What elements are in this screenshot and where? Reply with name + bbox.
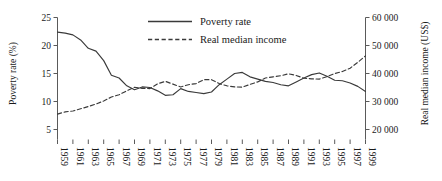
x-axis-tick-label: 1977 [198, 147, 208, 166]
right-axis-tick-label: 50 000 [372, 41, 398, 51]
x-axis-tick-label: 1993 [321, 147, 331, 166]
x-axis-tick-label: 1961 [75, 147, 85, 166]
x-axis-tick-label: 1985 [259, 147, 269, 166]
x-axis-tick-label: 1983 [244, 147, 254, 166]
left-axis-tick-label: 5 [46, 125, 51, 135]
x-axis-tick-label: 1967 [121, 147, 131, 166]
legend-label-poverty-rate: Poverty rate [200, 16, 251, 27]
x-axis-tick-label: 1981 [229, 147, 239, 166]
x-axis-tick-label: 1991 [306, 147, 316, 166]
x-axis-tick-label: 1965 [105, 147, 115, 166]
poverty-income-line-chart: 510152025 20 00030 00040 00050 00060 000… [0, 0, 442, 181]
x-axis: 1959196119631965196719691971197319751977… [58, 140, 378, 167]
x-axis-tick-label: 1995 [336, 147, 346, 166]
x-axis-tick-label: 1971 [152, 147, 162, 166]
chart-container: 510152025 20 00030 00040 00050 00060 000… [0, 0, 442, 181]
x-axis-tick-label: 1973 [167, 147, 177, 166]
left-axis-tick-label: 20 [42, 41, 52, 51]
x-axis-tick-label: 1975 [182, 147, 192, 166]
right-axis-tick-label: 60 000 [372, 13, 398, 23]
left-axis-tick-label: 25 [42, 13, 52, 23]
right-axis-tick-label: 30 000 [372, 97, 398, 107]
series-line-real-median-income [58, 56, 366, 114]
y-axis-title: Poverty rate (%) [8, 42, 19, 105]
left-axis: 510152025 [42, 13, 58, 140]
right-axis-tick-label: 20 000 [372, 125, 398, 135]
chart-legend: Poverty rateReal median income [148, 16, 287, 45]
x-axis-tick-label: 1997 [352, 147, 362, 166]
x-axis-tick-label: 1999 [367, 147, 377, 166]
left-axis-tick-label: 10 [42, 97, 52, 107]
left-axis-tick-label: 15 [42, 69, 52, 79]
legend-label-real-median-income: Real median income [200, 34, 287, 45]
right-axis-tick-label: 40 000 [372, 69, 398, 79]
x-axis-tick-label: 1989 [290, 147, 300, 166]
x-axis-tick-label: 1987 [275, 147, 285, 166]
x-axis-tick-label: 1959 [59, 147, 69, 166]
x-axis-tick-label: 1963 [90, 147, 100, 166]
right-axis: 20 00030 00040 00050 00060 000 [366, 13, 399, 140]
y2-axis-title: Real median income (US$) [420, 22, 431, 126]
x-axis-tick-label: 1979 [213, 147, 223, 166]
x-axis-tick-label: 1969 [136, 147, 146, 166]
